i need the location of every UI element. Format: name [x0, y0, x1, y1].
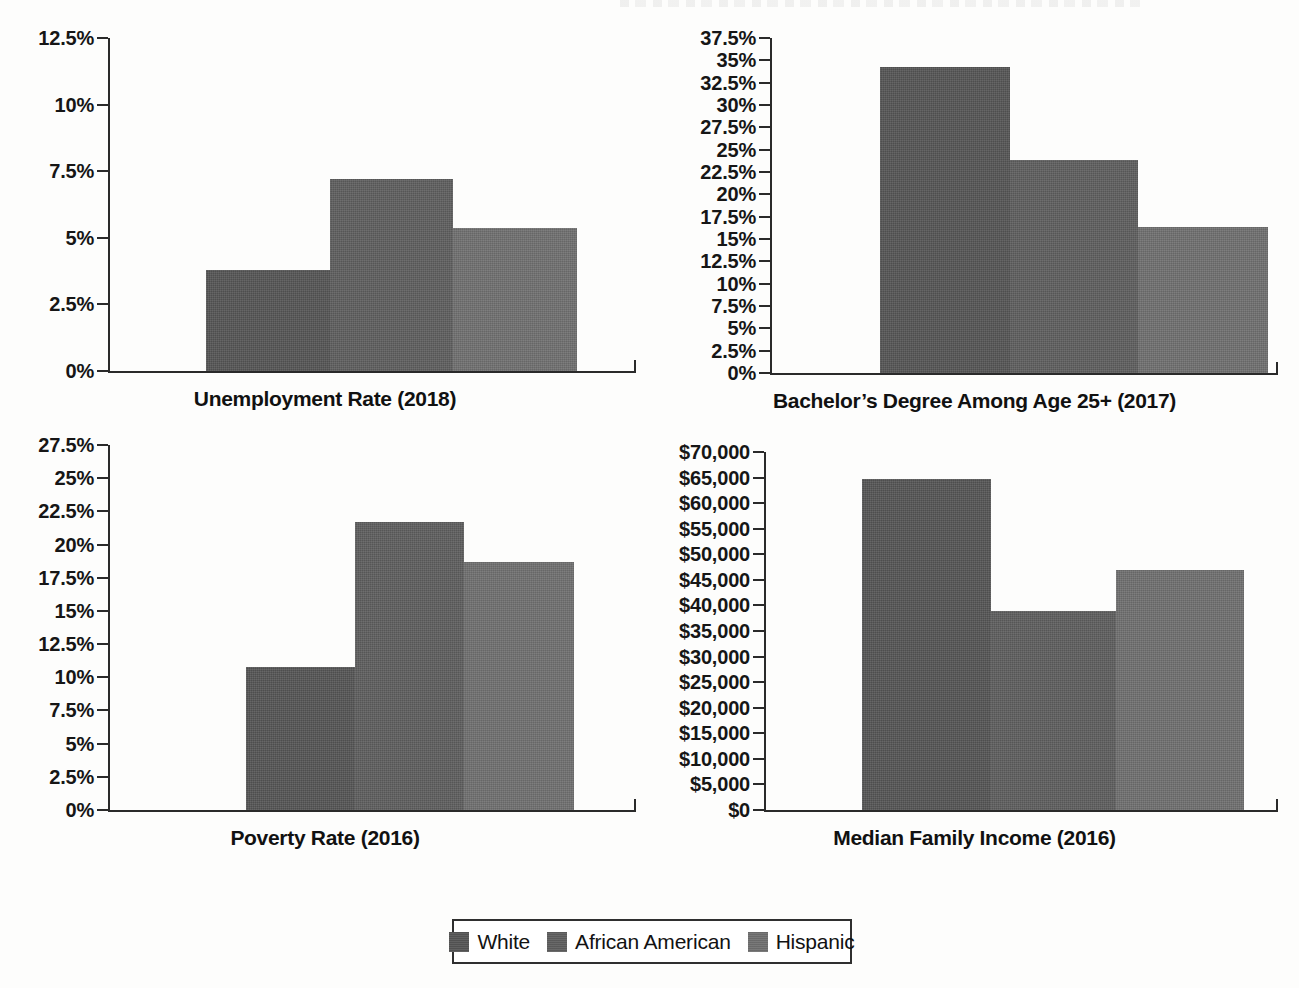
y-axis-line-1 [770, 38, 772, 373]
bar-0-white [206, 270, 330, 371]
y-axis-tick-label-0-0: 0% [65, 360, 94, 383]
legend-item-african-american[interactable]: African American [547, 930, 731, 954]
y-axis-line-3 [764, 452, 766, 810]
y-axis-tick-1-6 [759, 238, 770, 240]
legend-swatch-white [449, 932, 469, 952]
y-axis-tick-3-2 [753, 758, 764, 760]
y-axis-tick-label-1-14: 35% [717, 49, 756, 72]
y-axis-tick-label-3-5: $25,000 [679, 671, 750, 694]
y-axis-tick-label-1-3: 7.5% [711, 295, 756, 318]
y-axis-tick-label-1-9: 22.5% [700, 161, 756, 184]
chart-title-2: Poverty Rate (2016) [0, 826, 650, 850]
y-axis-tick-label-3-3: $15,000 [679, 722, 750, 745]
y-axis-tick-3-13 [753, 477, 764, 479]
y-axis-tick-1-13 [759, 82, 770, 84]
y-axis-tick-label-0-5: 12.5% [38, 27, 94, 50]
bar-2-hispanic [464, 562, 574, 810]
y-axis-tick-3-3 [753, 732, 764, 734]
y-axis-tick-label-3-4: $20,000 [679, 696, 750, 719]
x-axis-end-cap-3 [1276, 799, 1278, 812]
y-axis-tick-label-3-2: $10,000 [679, 747, 750, 770]
y-axis-tick-label-2-1: 2.5% [49, 765, 94, 788]
y-axis-tick-label-2-5: 12.5% [38, 633, 94, 656]
legend-swatch-african-american [547, 932, 567, 952]
y-axis-tick-3-7 [753, 630, 764, 632]
y-axis-tick-1-12 [759, 104, 770, 106]
chart-legend: White African American Hispanic [452, 919, 852, 964]
y-axis-tick-0-1 [97, 303, 108, 305]
y-axis-tick-2-10 [97, 477, 108, 479]
bar-3-white [862, 479, 991, 810]
y-axis-tick-2-4 [97, 676, 108, 678]
y-axis-tick-1-2 [759, 327, 770, 329]
y-axis-tick-2-8 [97, 544, 108, 546]
y-axis-tick-label-1-2: 5% [727, 317, 756, 340]
chart-panel-poverty-rate: 0%2.5%5%7.5%10%12.5%15%17.5%20%22.5%25%2… [0, 428, 650, 860]
y-axis-tick-label-2-9: 22.5% [38, 500, 94, 523]
y-axis-tick-label-1-1: 2.5% [711, 339, 756, 362]
chart-title-3: Median Family Income (2016) [650, 826, 1299, 850]
legend-item-white[interactable]: White [449, 930, 530, 954]
y-axis-tick-label-3-0: $0 [728, 799, 750, 822]
y-axis-tick-label-2-7: 17.5% [38, 566, 94, 589]
plot-area-2: 0%2.5%5%7.5%10%12.5%15%17.5%20%22.5%25%2… [108, 445, 636, 810]
y-axis-tick-label-3-10: $50,000 [679, 543, 750, 566]
y-axis-tick-label-3-1: $5,000 [690, 773, 750, 796]
y-axis-tick-label-1-7: 17.5% [700, 205, 756, 228]
y-axis-tick-label-1-0: 0% [727, 362, 756, 385]
y-axis-tick-label-3-14: $70,000 [679, 441, 750, 464]
chart-panel-median-family-income: $0$5,000$10,000$15,000$20,000$25,000$30,… [650, 428, 1299, 860]
y-axis-tick-3-12 [753, 502, 764, 504]
y-axis-tick-0-4 [97, 104, 108, 106]
y-axis-tick-0-3 [97, 170, 108, 172]
y-axis-tick-label-2-6: 15% [55, 599, 94, 622]
y-axis-tick-label-1-4: 10% [717, 272, 756, 295]
y-axis-tick-1-10 [759, 149, 770, 151]
x-axis-line-0 [108, 371, 636, 373]
y-axis-line-2 [108, 445, 110, 810]
y-axis-tick-1-3 [759, 305, 770, 307]
y-axis-tick-3-10 [753, 553, 764, 555]
y-axis-tick-2-5 [97, 643, 108, 645]
y-axis-tick-label-1-15: 37.5% [700, 27, 756, 50]
y-axis-tick-label-0-2: 5% [65, 226, 94, 249]
y-axis-tick-label-3-13: $65,000 [679, 466, 750, 489]
y-axis-tick-0-5 [97, 37, 108, 39]
bar-1-hispanic [1138, 227, 1268, 374]
y-axis-tick-label-0-1: 2.5% [49, 293, 94, 316]
y-axis-tick-3-6 [753, 656, 764, 658]
chart-panel-bachelors-degree: 0%2.5%5%7.5%10%12.5%15%17.5%20%22.5%25%2… [650, 8, 1299, 420]
y-axis-tick-1-8 [759, 193, 770, 195]
legend-swatch-hispanic [748, 932, 768, 952]
y-axis-tick-2-11 [97, 444, 108, 446]
legend-label-african-american: African American [575, 930, 731, 954]
x-axis-end-cap-1 [1276, 362, 1278, 375]
y-axis-tick-3-5 [753, 681, 764, 683]
bar-1-african-american [1010, 160, 1138, 373]
y-axis-tick-label-1-12: 30% [717, 94, 756, 117]
plot-area-0: 0%2.5%5%7.5%10%12.5% [108, 38, 636, 371]
y-axis-tick-label-2-11: 27.5% [38, 434, 94, 457]
y-axis-tick-3-11 [753, 528, 764, 530]
y-axis-tick-3-4 [753, 707, 764, 709]
y-axis-tick-label-1-6: 15% [717, 228, 756, 251]
y-axis-tick-1-7 [759, 216, 770, 218]
y-axis-tick-0-0 [97, 370, 108, 372]
chart-title-0: Unemployment Rate (2018) [0, 387, 650, 411]
chart-panel-unemployment-rate: 0%2.5%5%7.5%10%12.5% Unemployment Rate (… [0, 8, 650, 420]
y-axis-tick-label-2-8: 20% [55, 533, 94, 556]
y-axis-tick-0-2 [97, 237, 108, 239]
y-axis-tick-label-3-12: $60,000 [679, 492, 750, 515]
y-axis-tick-1-11 [759, 126, 770, 128]
y-axis-tick-1-0 [759, 372, 770, 374]
bar-2-white [246, 667, 355, 810]
y-axis-tick-label-1-5: 12.5% [700, 250, 756, 273]
y-axis-tick-label-1-8: 20% [717, 183, 756, 206]
y-axis-tick-1-9 [759, 171, 770, 173]
y-axis-tick-3-0 [753, 809, 764, 811]
y-axis-tick-2-1 [97, 776, 108, 778]
bar-2-african-american [355, 522, 464, 810]
y-axis-tick-2-2 [97, 743, 108, 745]
y-axis-tick-1-5 [759, 260, 770, 262]
legend-item-hispanic[interactable]: Hispanic [748, 930, 855, 954]
